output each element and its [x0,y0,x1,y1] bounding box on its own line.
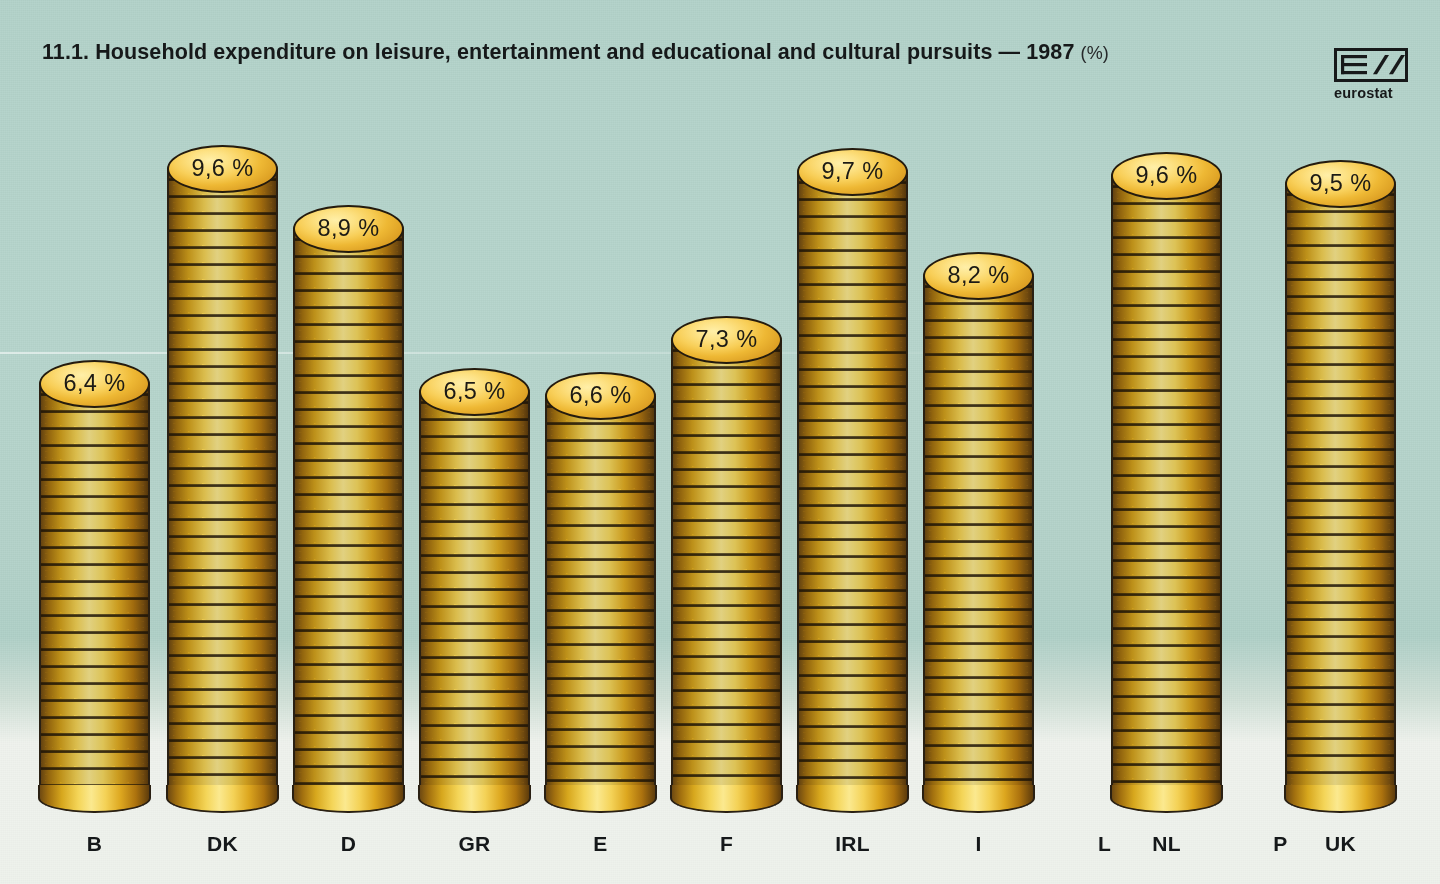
category-label-nl: NL [1104,832,1229,856]
coin-stack-irl: 9,7 % [797,148,908,800]
coin-stack-base [1110,785,1223,813]
coin-stack-body [545,396,656,800]
coin-stack-base [166,785,279,813]
chart-column-uk: 9,5 % UK [1278,0,1403,884]
bar-value-label: 7,3 % [695,326,757,353]
coin-stack-top: 9,7 % [797,148,908,196]
chart-page: 11.1. Household expenditure on leisure, … [0,0,1440,884]
coin-stack-base [544,785,657,813]
chart-column-nl: 9,6 % NL [1104,0,1229,884]
coin-stack-base [38,785,151,813]
coin-stack-body [167,169,278,800]
coin-stack-top: 6,4 % [39,360,150,408]
coin-stack-chart: 6,4 % B 9,6 % DK 8,9 % [0,0,1440,884]
coin-stack-top: 9,5 % [1285,160,1396,208]
coin-stack-top: 8,9 % [293,205,404,253]
chart-column-i: 8,2 % I [916,0,1041,884]
chart-column-b: 6,4 % B [32,0,157,884]
bar-value-label: 8,2 % [947,262,1009,289]
category-label-d: D [286,832,411,856]
coin-stack-body [419,392,530,800]
coin-stack-top: 9,6 % [1111,152,1222,200]
category-label-e: E [538,832,663,856]
coin-stack-i: 8,2 % [923,252,1034,800]
bar-value-label: 9,6 % [191,155,253,182]
coin-stack-top: 8,2 % [923,252,1034,300]
chart-column-d: 8,9 % D [286,0,411,884]
category-label-gr: GR [412,832,537,856]
category-label-uk: UK [1278,832,1403,856]
coin-stack-b: 6,4 % [39,360,150,800]
chart-column-e: 6,6 % E [538,0,663,884]
bar-value-label: 6,6 % [569,382,631,409]
coin-stack-body [293,229,404,800]
chart-column-gr: 6,5 % GR [412,0,537,884]
bar-value-label: 6,4 % [63,370,125,397]
chart-column-irl: 9,7 % IRL [790,0,915,884]
coin-stack-body [1285,184,1396,800]
bar-value-label: 9,5 % [1309,170,1371,197]
category-label-b: B [32,832,157,856]
coin-stack-top: 7,3 % [671,316,782,364]
coin-stack-nl: 9,6 % [1111,152,1222,800]
bar-value-label: 9,7 % [821,158,883,185]
coin-stack-body [671,340,782,800]
coin-stack-body [39,384,150,800]
category-label-dk: DK [160,832,285,856]
coin-stack-top: 6,5 % [419,368,530,416]
coin-stack-d: 8,9 % [293,205,404,800]
coin-stack-e: 6,6 % [545,372,656,800]
chart-column-dk: 9,6 % DK [160,0,285,884]
coin-stack-dk: 9,6 % [167,145,278,800]
coin-stack-uk: 9,5 % [1285,160,1396,800]
coin-stack-base [292,785,405,813]
coin-stack-body [923,276,1034,800]
bar-value-label: 6,5 % [443,378,505,405]
coin-stack-top: 9,6 % [167,145,278,193]
coin-stack-base [418,785,531,813]
bar-value-label: 9,6 % [1135,162,1197,189]
coin-stack-top: 6,6 % [545,372,656,420]
coin-stack-base [796,785,909,813]
coin-stack-base [670,785,783,813]
category-label-f: F [664,832,789,856]
coin-stack-base [922,785,1035,813]
coin-stack-f: 7,3 % [671,316,782,800]
coin-stack-gr: 6,5 % [419,368,530,800]
category-label-i: I [916,832,1041,856]
bar-value-label: 8,9 % [317,215,379,242]
coin-stack-base [1284,785,1397,813]
coin-stack-body [797,172,908,800]
category-label-irl: IRL [790,832,915,856]
chart-column-f: 7,3 % F [664,0,789,884]
coin-stack-body [1111,176,1222,800]
